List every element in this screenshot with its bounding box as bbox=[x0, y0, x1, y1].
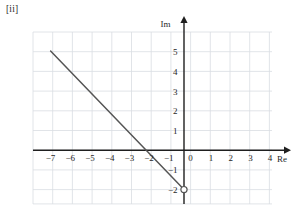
argand-diagram-figure: [ii] bbox=[0, 0, 299, 218]
axes bbox=[33, 16, 291, 204]
x-tick-label: −3 bbox=[125, 153, 135, 163]
real-axis-label: Re bbox=[277, 154, 287, 164]
x-tick-label: −4 bbox=[105, 153, 115, 163]
x-tick-label: −6 bbox=[66, 153, 76, 163]
x-tick-label: 4 bbox=[268, 153, 273, 163]
argand-plot: −7 −6 −5 −4 −3 −2 −1 0 1 2 3 4 −2 −1 1 2… bbox=[0, 0, 299, 218]
y-tick-label: −1 bbox=[168, 165, 178, 175]
y-tick-label: 3 bbox=[173, 87, 178, 97]
y-tick-label: 1 bbox=[173, 126, 178, 136]
y-tick-label: 5 bbox=[173, 47, 178, 57]
y-tick-label: −2 bbox=[168, 185, 178, 195]
open-endpoint-marker bbox=[181, 187, 187, 193]
x-tick-label: 0 bbox=[188, 153, 193, 163]
x-tick-label: −1 bbox=[164, 153, 174, 163]
y-tick-label: 2 bbox=[173, 106, 178, 116]
grid-lines bbox=[33, 32, 272, 204]
x-tick-label: 2 bbox=[228, 153, 233, 163]
x-tick-label: −7 bbox=[46, 153, 56, 163]
x-tick-label: −5 bbox=[85, 153, 95, 163]
x-tick-label: 1 bbox=[209, 153, 214, 163]
imaginary-axis-arrowhead bbox=[180, 16, 187, 23]
x-tick-label: 3 bbox=[248, 153, 253, 163]
imaginary-axis-label: Im bbox=[161, 19, 171, 29]
real-axis-arrowhead bbox=[284, 147, 291, 154]
imaginary-axis-tick-labels: −2 −1 1 2 3 4 5 bbox=[168, 47, 178, 195]
x-tick-label: −2 bbox=[144, 153, 154, 163]
y-tick-label: 4 bbox=[173, 67, 178, 77]
real-axis-tick-labels: −7 −6 −5 −4 −3 −2 −1 0 1 2 3 4 bbox=[46, 153, 273, 163]
